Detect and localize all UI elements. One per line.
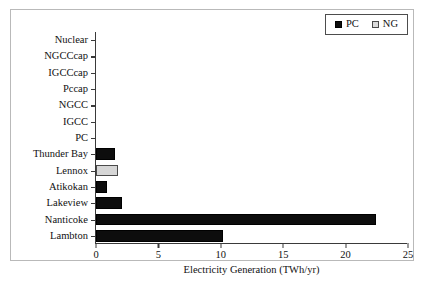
x-axis-tick-label: 10 [216,249,227,260]
bar-row: Pccap [96,81,407,97]
x-axis-tick [408,243,409,248]
y-axis-tick [91,73,96,74]
y-axis-tick [91,138,96,139]
legend-label: PC [346,19,359,30]
legend-swatch-icon [372,21,379,28]
category-label: IGCC [63,116,88,127]
y-axis-tick [91,122,96,123]
bar-row: IGCCcap [96,65,407,81]
y-axis-tick [91,105,96,106]
x-axis: Electricity Generation (TWh/yr) 05101520… [96,243,407,273]
category-label: Nanticoke [45,214,88,225]
legend-entry-ng: NG [372,19,398,30]
category-label: PC [75,133,88,144]
bar-row: Lakeview [96,195,407,211]
bar-pc [96,181,107,193]
bar-row: Atikokan [96,179,407,195]
bar-row: NGCCcap [96,48,407,64]
category-label: Pccap [63,84,88,95]
legend-entry-pc: PC [335,19,359,30]
y-axis-tick [91,56,96,57]
category-label: NGCCcap [44,51,88,62]
y-axis-tick [91,40,96,41]
category-label: Lambton [50,231,88,242]
category-label: NGCC [59,100,88,111]
category-label: Lakeview [47,198,88,209]
bar-row: PC [96,130,407,146]
bar-row: NGCC [96,97,407,113]
bar-row: Nanticoke [96,211,407,227]
x-axis-tick-label: 25 [403,249,414,260]
y-axis-tick [91,89,96,90]
legend-swatch-icon [335,21,342,28]
chart-legend: PCNG [325,14,408,35]
bar-row: Lambton [96,228,407,244]
category-label: Nuclear [55,35,88,46]
bar-pc [96,230,223,242]
category-label: Lennox [56,165,88,176]
x-axis-tick-label: 15 [278,249,289,260]
bar-ng [96,165,118,177]
category-label: Thunder Bay [33,149,88,160]
bar-pc [96,148,115,160]
legend-label: NG [383,19,398,30]
category-label: Atikokan [49,182,88,193]
x-axis-tick-label: 5 [156,249,161,260]
bar-pc [96,197,122,209]
x-axis-tick-label: 0 [93,249,98,260]
bar-row: Thunder Bay [96,146,407,162]
x-axis-tick-label: 20 [340,249,351,260]
category-label: IGCCcap [48,68,88,79]
figure-frame: Electricity Generation (TWh/yr) 05101520… [10,9,414,261]
bar-row: IGCC [96,114,407,130]
plot-area: Electricity Generation (TWh/yr) 05101520… [95,32,407,244]
bar-pc [96,214,376,226]
x-axis-title: Electricity Generation (TWh/yr) [96,264,407,275]
bar-row: Lennox [96,162,407,178]
